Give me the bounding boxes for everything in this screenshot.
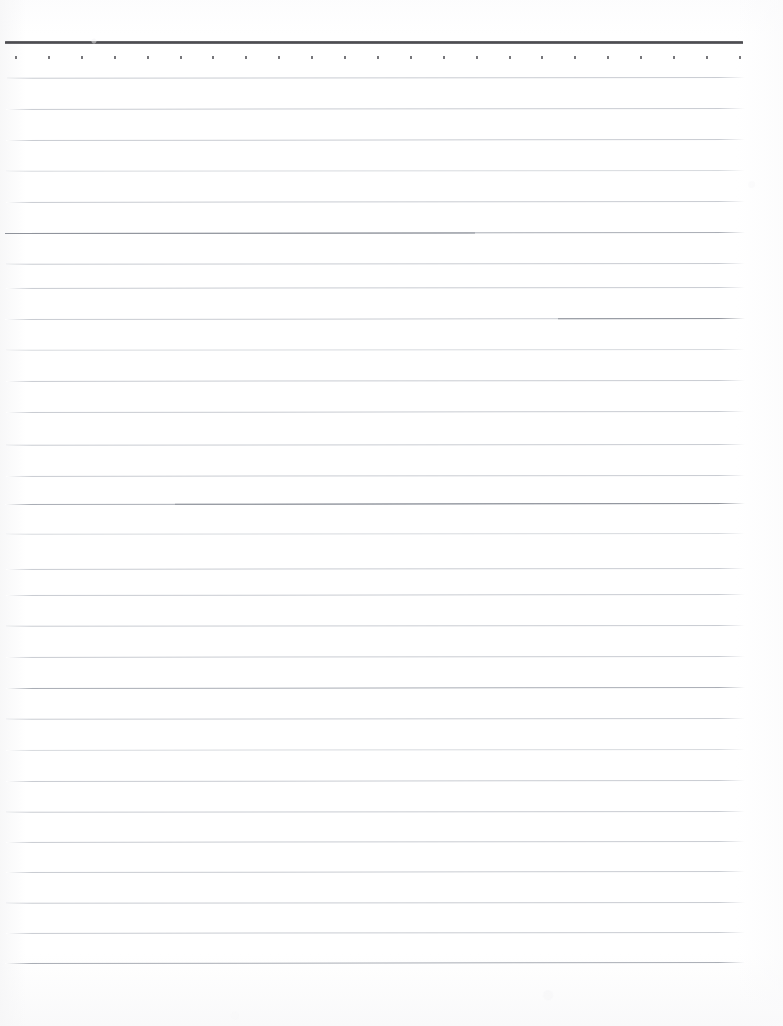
- perforation-dot: [180, 56, 182, 59]
- perforation-dot: [706, 56, 708, 59]
- rule-line: [5, 232, 745, 234]
- rule-line: [6, 841, 745, 843]
- rule-line: [6, 108, 745, 110]
- perforation-dot: [212, 56, 214, 59]
- rule-line: [6, 718, 745, 720]
- perforation-dot: [476, 56, 478, 59]
- rule-line: [6, 475, 745, 477]
- perforation-dot: [147, 56, 149, 59]
- rule-line: [6, 594, 745, 596]
- rule-line: [6, 349, 745, 351]
- perforation-dot: [541, 56, 543, 59]
- perforation-dot: [81, 56, 83, 59]
- perforation-dot: [344, 56, 346, 59]
- rule-line: [6, 568, 745, 570]
- perforation-dot: [607, 56, 609, 59]
- perforation-dot: [739, 56, 741, 59]
- perforation-dot: [311, 56, 313, 59]
- scanned-page: [0, 0, 783, 1026]
- rule-line: [6, 380, 745, 382]
- rule-line: [6, 871, 745, 873]
- perforation-dot: [443, 56, 445, 59]
- rule-line-dark-segment: [175, 503, 745, 505]
- rule-line: [6, 287, 745, 289]
- rule-line: [6, 687, 745, 689]
- perforation-dot: [278, 56, 280, 59]
- rule-line: [6, 444, 745, 446]
- rule-line: [5, 962, 745, 964]
- perforation-dot-row: [0, 56, 783, 62]
- perforation-dot: [640, 56, 642, 59]
- rule-line: [6, 411, 745, 413]
- perforation-dot: [48, 56, 50, 59]
- rule-line-dark-segment: [5, 232, 475, 234]
- rule-line: [5, 503, 745, 505]
- perforation-dot: [114, 56, 116, 59]
- perforation-dot: [574, 56, 576, 59]
- rule-line: [6, 932, 745, 934]
- rule-line: [6, 749, 745, 751]
- perforation-dot: [245, 56, 247, 59]
- rule-line: [6, 625, 745, 627]
- perforation-dot: [509, 56, 511, 59]
- rule-line: [7, 77, 745, 79]
- rule-line: [6, 139, 745, 141]
- rule-line: [6, 263, 745, 265]
- rule-line: [6, 780, 745, 782]
- perforation-dot: [673, 56, 675, 59]
- rule-line: [5, 318, 745, 320]
- perforation-dot: [15, 56, 17, 59]
- perforation-dot: [377, 56, 379, 59]
- rule-line: [6, 656, 745, 658]
- rule-line: [6, 902, 745, 904]
- rule-line: [6, 811, 745, 813]
- rule-line-dark-segment: [558, 318, 745, 319]
- top-heavy-rule: [5, 41, 743, 44]
- rule-line: [6, 170, 745, 172]
- rule-line: [6, 201, 745, 203]
- perforation-dot: [410, 56, 412, 59]
- rule-line: [6, 533, 745, 535]
